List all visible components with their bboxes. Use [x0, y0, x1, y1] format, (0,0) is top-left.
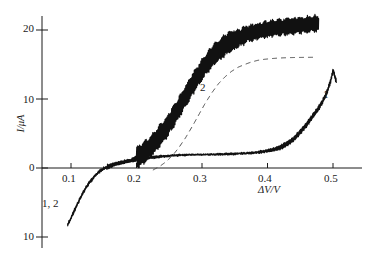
- chart-canvas: [0, 0, 368, 253]
- axes-group: [36, 16, 362, 248]
- x-axis-title: ΔV/V: [258, 184, 280, 195]
- curve-label-2: 2: [200, 81, 206, 93]
- curve-label-1-2: 1, 2: [42, 197, 59, 209]
- xtick-label-0.2: 0.2: [127, 172, 141, 184]
- xtick-label-0.3: 0.3: [193, 172, 207, 184]
- series-group: [68, 14, 337, 225]
- ytick-label-10: 10: [23, 93, 34, 105]
- curve-label-1: 1: [323, 88, 329, 100]
- ytick-label-20: 20: [23, 22, 34, 34]
- series-curve-2: [68, 14, 319, 225]
- voltammogram-figure: 20 10 0 10 0.1 0.2 0.3 0.4 0.5 I/μA ΔV/V…: [0, 0, 368, 253]
- xtick-label-0.5: 0.5: [324, 172, 338, 184]
- xtick-label-0.1: 0.1: [62, 172, 76, 184]
- ytick-label-minus-10: 10: [23, 230, 34, 242]
- ytick-label-0: 0: [29, 161, 35, 173]
- xtick-label-0.4: 0.4: [258, 172, 272, 184]
- y-axis-title: I/μA: [15, 110, 26, 138]
